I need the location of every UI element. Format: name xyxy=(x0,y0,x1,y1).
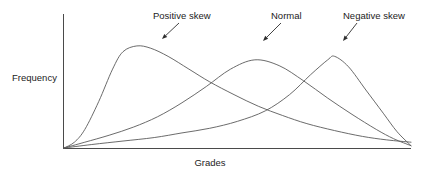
leader-line-negative-skew xyxy=(346,23,357,37)
skewness-chart: Positive skew Normal Negative skew Frequ… xyxy=(0,0,426,176)
chart-canvas: Positive skew Normal Negative skew Frequ… xyxy=(0,0,426,176)
y-axis-label: Frequency xyxy=(12,72,57,83)
annotation-label-positive-skew: Positive skew xyxy=(153,10,211,21)
arrow-negative-skew xyxy=(343,23,357,41)
annotation-label-normal: Normal xyxy=(271,10,302,21)
annotation-label-negative-skew: Negative skew xyxy=(343,10,405,21)
leader-line-normal xyxy=(267,23,281,37)
x-axis-label: Grades xyxy=(194,157,225,168)
annotation-arrows-group xyxy=(162,23,357,41)
curve-negative-skew xyxy=(64,56,411,148)
arrow-normal xyxy=(263,23,281,41)
leader-line-positive-skew xyxy=(166,23,179,35)
axis-titles-group: Frequency Grades xyxy=(12,72,226,168)
curves-group xyxy=(64,46,411,148)
axes-group xyxy=(63,14,411,149)
arrow-positive-skew xyxy=(162,23,179,39)
curve-normal xyxy=(64,60,411,148)
annotation-labels-group: Positive skew Normal Negative skew xyxy=(153,10,405,21)
